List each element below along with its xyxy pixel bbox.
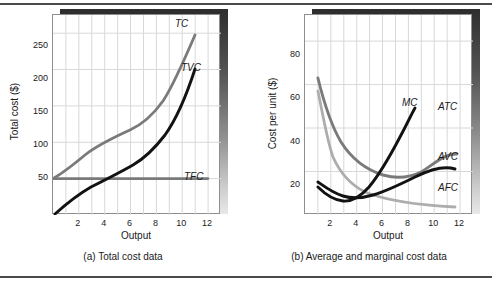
y-tick: 50 — [38, 173, 48, 182]
curve-label-avc: AVC — [438, 151, 458, 162]
curve-label-mc: MC — [402, 97, 418, 108]
curve-tc — [53, 35, 195, 179]
panel-a-y-axis-label: Total cost ($) — [9, 72, 20, 152]
y-tick: 40 — [290, 137, 300, 146]
panels-container: 250 200 150 100 50 Total cost ($) — [0, 8, 492, 272]
panel-b-plot-frame: MC ATC AVC AFC — [304, 14, 472, 214]
panel-b-plot-area: MC ATC AVC AFC — [304, 14, 472, 219]
figure-top-rule — [0, 3, 492, 5]
panel-a-plot-area: TC TVC TFC — [52, 14, 220, 219]
panel-a-chart-svg — [53, 15, 221, 215]
panel-a-y-axis-ticks: 250 200 150 100 50 — [0, 14, 48, 214]
panel-b-shadow-right — [472, 9, 480, 214]
panel-total-cost: 250 200 150 100 50 Total cost ($) — [0, 8, 246, 272]
y-tick: 150 — [33, 107, 48, 116]
y-tick: 200 — [33, 74, 48, 83]
curve-label-atc: ATC — [438, 101, 457, 112]
curve-tvc — [55, 69, 195, 214]
curve-label-afc: AFC — [438, 182, 458, 193]
y-tick: 250 — [33, 41, 48, 50]
x-tick: 4 — [101, 218, 106, 228]
x-tick: 2 — [75, 218, 80, 228]
panel-a-h-gridlines — [53, 33, 221, 178]
figure-bottom-rule — [0, 276, 492, 278]
panel-b-x-axis-label: Output — [304, 230, 472, 241]
panel-b-caption: (b) Average and marginal cost data — [246, 251, 492, 262]
panel-a-plot-frame: TC TVC TFC — [52, 14, 220, 214]
y-tick: 80 — [290, 50, 300, 59]
x-tick: 6 — [127, 218, 132, 228]
panel-a-x-axis-label: Output — [52, 230, 220, 241]
x-tick: 10 — [428, 218, 438, 228]
cost-curves-figure: 250 200 150 100 50 Total cost ($) — [0, 0, 492, 286]
panel-b-y-axis-label: Cost per unit ($) — [267, 66, 278, 162]
panel-a-shadow-right — [220, 9, 228, 214]
x-tick: 12 — [202, 218, 212, 228]
x-tick: 8 — [405, 218, 410, 228]
panel-average-marginal-cost: 80 60 40 20 Cost per unit ($) — [246, 8, 492, 272]
x-tick: 10 — [176, 218, 186, 228]
panel-a-caption: (a) Total cost data — [0, 251, 246, 262]
curve-label-tfc: TFC — [184, 171, 203, 182]
x-tick: 4 — [353, 218, 358, 228]
x-tick: 6 — [379, 218, 384, 228]
curve-label-tvc: TVC — [181, 62, 201, 73]
x-tick: 2 — [327, 218, 332, 228]
y-tick: 100 — [33, 140, 48, 149]
y-tick: 20 — [290, 180, 300, 189]
curve-label-tc: TC — [175, 18, 188, 29]
x-tick: 8 — [153, 218, 158, 228]
y-tick: 60 — [290, 93, 300, 102]
panel-a-gridlines — [66, 15, 208, 215]
x-tick: 12 — [454, 218, 464, 228]
